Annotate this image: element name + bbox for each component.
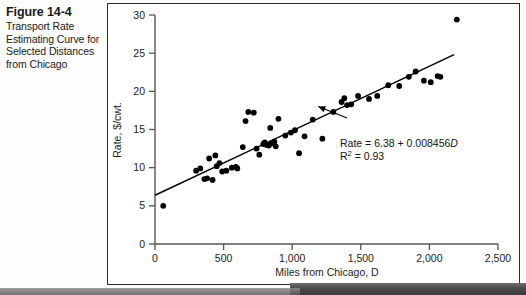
y-tick-label: 15 xyxy=(133,123,145,135)
data-point xyxy=(296,150,302,156)
x-tick-label: 500 xyxy=(215,252,233,264)
data-point xyxy=(421,78,427,84)
data-point xyxy=(385,82,391,88)
data-point xyxy=(273,143,279,149)
data-point xyxy=(160,203,166,209)
x-axis-ticks: 05001,0001,5002,0002,500 xyxy=(152,244,511,264)
data-point xyxy=(374,93,380,99)
data-point xyxy=(276,116,282,122)
figure-number: Figure 14-4 xyxy=(6,5,104,19)
data-point xyxy=(292,127,298,133)
data-point xyxy=(243,118,249,124)
y-tick-label: 10 xyxy=(133,161,145,173)
data-point xyxy=(217,160,223,166)
data-point xyxy=(454,17,460,23)
data-point xyxy=(240,144,246,150)
data-point xyxy=(341,95,347,101)
data-point xyxy=(310,117,316,123)
data-point xyxy=(197,166,203,172)
data-point xyxy=(204,175,210,181)
data-point xyxy=(319,136,325,142)
data-point xyxy=(366,96,372,102)
y-axis-ticks: 051015202530 xyxy=(133,9,155,250)
data-point xyxy=(267,125,273,131)
regression-equation-text: Rate = 6.38 + 0.008456D xyxy=(340,137,458,149)
data-point xyxy=(251,110,257,116)
data-point xyxy=(206,156,212,162)
scan-edge-shadow-secondary xyxy=(0,288,300,295)
y-axis-title: Rate, $/cwt. xyxy=(111,102,123,157)
data-point xyxy=(302,133,308,139)
x-tick-label: 1,000 xyxy=(279,252,305,264)
y-tick-label: 25 xyxy=(133,47,145,59)
data-point xyxy=(210,177,216,183)
data-point xyxy=(245,109,251,115)
y-tick-label: 0 xyxy=(139,238,145,250)
scanned-page: Figure 14-4 Transport Rate Estimating Cu… xyxy=(0,0,526,295)
data-point xyxy=(428,79,434,85)
y-tick-label: 20 xyxy=(133,85,145,97)
x-tick-label: 1,500 xyxy=(348,252,374,264)
x-tick-label: 2,000 xyxy=(416,252,442,264)
data-point xyxy=(406,74,412,80)
data-point xyxy=(234,166,240,172)
data-point xyxy=(223,168,229,174)
x-tick-label: 2,500 xyxy=(485,252,511,264)
data-point xyxy=(212,153,218,159)
data-point xyxy=(437,74,443,80)
scatter-plot: 051015202530 05001,0001,5002,0002,500 Ra… xyxy=(108,4,518,283)
data-point xyxy=(355,93,361,99)
data-point xyxy=(413,69,419,75)
figure-frame: 051015202530 05001,0001,5002,0002,500 Ra… xyxy=(107,3,520,285)
figure-caption: Figure 14-4 Transport Rate Estimating Cu… xyxy=(6,5,104,70)
data-point xyxy=(348,101,354,107)
x-axis-title: Miles from Chicago, D xyxy=(275,266,379,278)
data-point-group xyxy=(160,17,459,209)
x-tick-label: 0 xyxy=(152,252,158,264)
y-tick-label: 5 xyxy=(139,199,145,211)
data-point xyxy=(396,83,402,89)
figure-title: Transport Rate Estimating Curve for Sele… xyxy=(6,20,104,70)
data-point xyxy=(282,133,288,139)
scan-edge-shadow xyxy=(290,283,526,295)
data-point xyxy=(256,152,262,158)
data-point xyxy=(254,146,260,152)
y-tick-label: 30 xyxy=(133,9,145,21)
r-squared-text: R2 = 0.93 xyxy=(340,149,384,162)
